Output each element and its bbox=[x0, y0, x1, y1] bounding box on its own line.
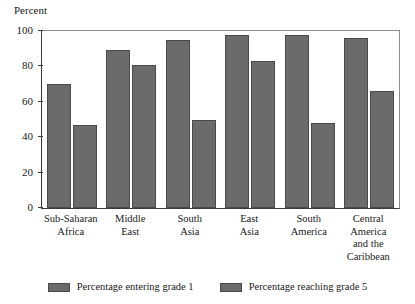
bar-group bbox=[102, 31, 162, 208]
bar-group bbox=[340, 31, 400, 208]
legend-swatch-icon bbox=[48, 283, 70, 292]
legend-item: Percentage reaching grade 5 bbox=[220, 281, 368, 293]
bar-group bbox=[42, 31, 102, 208]
bar-entering-grade-1 bbox=[47, 84, 71, 208]
x-axis-category-labels: Sub-Saharan AfricaMiddle EastSouth AsiaE… bbox=[41, 213, 400, 271]
y-axis-tick-label: 100 bbox=[17, 24, 34, 36]
x-axis-category-label: East Asia bbox=[220, 213, 280, 238]
y-axis-tick-label: 0 bbox=[28, 201, 34, 213]
x-axis-category-label: Sub-Saharan Africa bbox=[41, 213, 101, 238]
bar-entering-grade-1 bbox=[285, 35, 309, 208]
bar-group bbox=[280, 31, 340, 208]
bar-reaching-grade-5 bbox=[251, 61, 275, 208]
legend-label: Percentage entering grade 1 bbox=[77, 281, 194, 293]
bar-reaching-grade-5 bbox=[370, 91, 394, 208]
x-axis-category-label: Central America and the Caribbean bbox=[339, 213, 399, 263]
y-axis-unit-label: Percent bbox=[14, 4, 47, 16]
chart-plot-area: 020406080100 bbox=[41, 30, 400, 209]
bar-group bbox=[161, 31, 221, 208]
bar-reaching-grade-5 bbox=[311, 123, 335, 208]
y-axis-tick-label: 60 bbox=[22, 95, 33, 107]
x-axis-category-label: South America bbox=[279, 213, 339, 238]
legend-swatch-icon bbox=[220, 283, 242, 292]
bar-series-container bbox=[42, 31, 399, 208]
legend-item: Percentage entering grade 1 bbox=[48, 281, 194, 293]
y-axis-tick-label: 40 bbox=[22, 130, 33, 142]
bar-entering-grade-1 bbox=[106, 50, 130, 208]
x-axis-category-label: Middle East bbox=[101, 213, 161, 238]
bar-reaching-grade-5 bbox=[132, 65, 156, 208]
y-axis-tick-label: 20 bbox=[22, 166, 33, 178]
bar-entering-grade-1 bbox=[344, 38, 368, 208]
y-axis-tick-label: 80 bbox=[22, 59, 33, 71]
bar-reaching-grade-5 bbox=[73, 125, 97, 208]
bar-entering-grade-1 bbox=[225, 35, 249, 208]
chart-legend: Percentage entering grade 1Percentage re… bbox=[0, 281, 415, 293]
x-axis-category-label: South Asia bbox=[160, 213, 220, 238]
bar-group bbox=[221, 31, 281, 208]
bar-entering-grade-1 bbox=[166, 40, 190, 208]
legend-label: Percentage reaching grade 5 bbox=[249, 281, 368, 293]
bar-reaching-grade-5 bbox=[192, 120, 216, 209]
